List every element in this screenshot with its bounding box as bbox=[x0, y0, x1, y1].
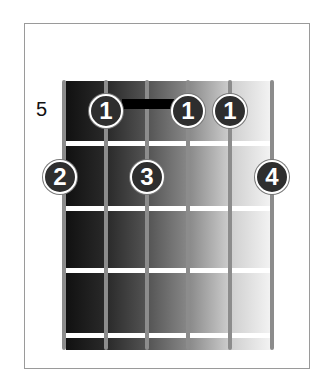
fret-line-2 bbox=[66, 206, 272, 211]
string-6 bbox=[270, 80, 274, 350]
finger-dot: 3 bbox=[130, 160, 164, 194]
fret-line-1 bbox=[66, 141, 272, 146]
string-1 bbox=[62, 80, 66, 350]
finger-dot: 2 bbox=[43, 160, 77, 194]
finger-dot: 1 bbox=[89, 94, 123, 128]
finger-dot: 1 bbox=[213, 94, 247, 128]
finger-dot: 4 bbox=[255, 160, 289, 194]
finger-dot: 1 bbox=[171, 94, 205, 128]
starting-fret-label: 5 bbox=[36, 98, 47, 121]
string-3 bbox=[145, 80, 149, 350]
barre-bar bbox=[122, 99, 174, 109]
fret-line-4 bbox=[66, 333, 272, 338]
fret-line-3 bbox=[66, 268, 272, 273]
